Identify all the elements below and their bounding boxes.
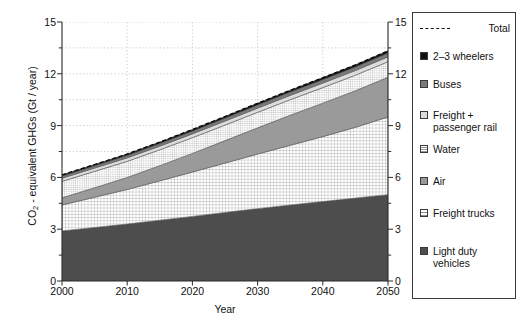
legend-item-label: Water — [433, 144, 460, 156]
legend-item[interactable]: Buses — [420, 79, 461, 91]
stacked-area-plot — [62, 22, 388, 281]
legend-item[interactable]: Total — [420, 23, 510, 35]
chart-legend: Total2–3 wheelersBusesFreight + passenge… — [412, 12, 516, 299]
y-axis-title-suffix: - equivalent GHGs (Gt / year) — [26, 66, 38, 205]
y-tick-label-left: 12 — [30, 69, 56, 79]
y-tick-label-left: 6 — [30, 172, 56, 182]
legend-item-label: Total — [455, 23, 510, 35]
x-tick-label: 2040 — [300, 286, 346, 296]
x-tick-label: 2020 — [169, 286, 215, 296]
legend-swatch-icon — [420, 177, 428, 185]
legend-item[interactable]: Air — [420, 176, 445, 188]
legend-swatch-icon — [420, 111, 428, 119]
legend-item-label: Light duty vehicles — [433, 246, 477, 269]
x-tick-label: 2010 — [104, 286, 150, 296]
legend-item-label: Freight trucks — [433, 208, 495, 220]
legend-item[interactable]: Light duty vehicles — [420, 246, 477, 269]
legend-item-label: 2–3 wheelers — [433, 51, 494, 63]
x-tick-label: 2050 — [365, 286, 411, 296]
legend-item[interactable]: Freight + passenger rail — [420, 110, 497, 133]
series-areas — [62, 51, 388, 281]
legend-item[interactable]: Water — [420, 144, 460, 156]
legend-dashed-line-icon — [420, 28, 450, 29]
chart-figure: CO2 - equivalent GHGs (Gt / year) Year 0… — [0, 0, 523, 323]
legend-swatch-icon — [420, 52, 428, 60]
x-axis-title: Year — [62, 303, 388, 315]
legend-swatch-icon — [420, 80, 428, 88]
plot-area — [62, 22, 388, 281]
legend-item[interactable]: 2–3 wheelers — [420, 51, 494, 63]
legend-item-label: Buses — [433, 79, 461, 91]
legend-item-label: Air — [433, 176, 445, 188]
legend-swatch-icon — [420, 145, 428, 153]
legend-swatch-icon — [420, 209, 428, 217]
legend-swatch-icon — [420, 247, 428, 255]
legend-item-label: Freight + passenger rail — [433, 110, 497, 133]
y-tick-label-left: 15 — [30, 17, 56, 27]
y-tick-label-left: 3 — [30, 224, 56, 234]
x-tick-label: 2000 — [39, 286, 85, 296]
x-tick-label: 2030 — [235, 286, 281, 296]
y-tick-label-left: 9 — [30, 121, 56, 131]
legend-item[interactable]: Freight trucks — [420, 208, 495, 220]
y-axis-title-subscript: 2 — [31, 206, 40, 210]
